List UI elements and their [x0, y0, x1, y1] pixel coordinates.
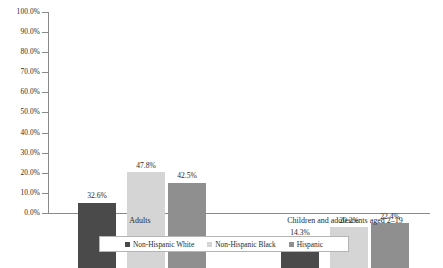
bar-label-adults-non-hispanic-white: 32.6% [78, 191, 116, 200]
legend-item-hispanic[interactable]: Hispanic [289, 240, 323, 249]
y-tick-label-30: 30.0% [0, 149, 40, 157]
y-tick-label-70: 70.0% [0, 68, 40, 76]
category-label-children: Children and adolescents aged 2–19 [265, 216, 425, 226]
y-tick-label-10: 10.0% [0, 189, 40, 197]
category-label-adults: Adults [80, 216, 200, 226]
legend-swatch-icon-hispanic [289, 242, 294, 247]
bar-children-hispanic [371, 223, 409, 268]
y-tick-label-80: 80.0% [0, 48, 40, 56]
y-tick-label-0: 0.0% [0, 209, 40, 217]
y-axis-line [48, 12, 49, 213]
legend-item-non-hispanic-black[interactable]: Non-Hispanic Black [207, 240, 276, 249]
y-tick-label-60: 60.0% [0, 88, 40, 96]
legend-label-non-hispanic-white: Non-Hispanic White [133, 240, 194, 249]
chart-legend: Non-Hispanic White Non-Hispanic Black Hi… [99, 236, 349, 252]
bar-label-adults-non-hispanic-black: 47.8% [127, 161, 165, 170]
bar-label-adults-hispanic: 42.5% [168, 171, 206, 180]
legend-label-hispanic: Hispanic [297, 240, 323, 249]
y-tick-label-50: 50.0% [0, 108, 40, 116]
legend-label-non-hispanic-black: Non-Hispanic Black [215, 240, 276, 249]
legend-item-non-hispanic-white[interactable]: Non-Hispanic White [125, 240, 194, 249]
y-tick-label-20: 20.0% [0, 169, 40, 177]
bar-chart: 100.0% 90.0% 80.0% 70.0% 60.0% 50.0% 40.… [0, 0, 443, 268]
y-tick-label-40: 40.0% [0, 129, 40, 137]
legend-swatch-icon-non-hispanic-white [125, 242, 130, 247]
y-tick-label-100: 100.0% [0, 8, 40, 16]
legend-swatch-icon-non-hispanic-black [207, 242, 212, 247]
y-tick-label-90: 90.0% [0, 28, 40, 36]
